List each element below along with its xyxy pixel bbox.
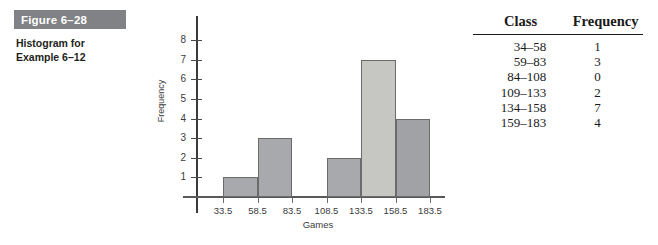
column-header-frequency: Frequency: [568, 13, 643, 35]
x-axis-tick-label: 158.5: [379, 205, 413, 216]
table-row: 159–1834: [473, 115, 643, 130]
x-axis-tick-label: 83.5: [275, 205, 309, 216]
figure-caption-block: Figure 6–28 Histogram for Example 6–12: [14, 10, 126, 64]
x-axis-tick: [361, 198, 362, 203]
cell-class: 134–158: [473, 100, 568, 115]
cell-class: 159–183: [473, 115, 568, 130]
cell-frequency: 3: [568, 55, 643, 70]
x-axis-tick: [223, 198, 224, 203]
cell-class: 84–108: [473, 70, 568, 85]
table-row: 84–1080: [473, 70, 643, 85]
x-axis-tick-label: 58.5: [241, 205, 275, 216]
x-axis-tick: [430, 198, 431, 203]
histogram-bar: [396, 119, 431, 197]
table-row: 134–1587: [473, 100, 643, 115]
figure-caption-text: Histogram for Example 6–12: [14, 36, 126, 64]
figure-number-bar: Figure 6–28: [14, 10, 126, 29]
x-axis-tick-label: 108.5: [310, 205, 344, 216]
cell-frequency: 0: [568, 70, 643, 85]
x-axis-tick: [292, 198, 293, 203]
figure-caption-line-1: Histogram for: [16, 36, 126, 50]
x-axis-tick-label: 133.5: [344, 205, 378, 216]
figure-number-label: Figure 6–28: [21, 14, 87, 26]
table-row: 34–581: [473, 35, 643, 55]
x-axis-tick-label: 33.5: [206, 205, 240, 216]
frequency-distribution-table: Class Frequency 34–58159–83384–1080109–1…: [473, 13, 643, 131]
cell-class: 59–83: [473, 55, 568, 70]
x-axis-tick-label: 183.5: [413, 205, 447, 216]
figure-caption-line-2: Example 6–12: [16, 50, 126, 64]
x-axis-tick: [327, 198, 328, 203]
histogram-bar: [223, 177, 258, 197]
cell-frequency: 4: [568, 115, 643, 130]
histogram-bar: [327, 158, 362, 197]
histogram-chart: 12345678 Frequency 33.558.583.5108.5133.…: [150, 8, 450, 240]
cell-frequency: 1: [568, 35, 643, 55]
x-axis-tick: [258, 198, 259, 203]
cell-frequency: 2: [568, 85, 643, 100]
x-axis-tick: [396, 198, 397, 203]
table-row: 109–1332: [473, 85, 643, 100]
histogram-bar: [361, 60, 396, 197]
cell-class: 34–58: [473, 35, 568, 55]
histogram-bar: [258, 138, 293, 197]
histogram-bars: [150, 8, 450, 197]
x-axis-title: Games: [278, 219, 358, 230]
column-header-class: Class: [473, 13, 568, 35]
cell-frequency: 7: [568, 100, 643, 115]
table-row: 59–833: [473, 55, 643, 70]
cell-class: 109–133: [473, 85, 568, 100]
table-header-row: Class Frequency: [473, 13, 643, 35]
